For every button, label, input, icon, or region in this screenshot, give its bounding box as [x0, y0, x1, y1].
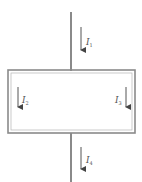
label-i2: I2 [21, 95, 29, 106]
label-i1: I1 [85, 37, 93, 48]
current-divider-diagram: I1 I2 I3 I4 [0, 0, 142, 182]
label-i3: I3 [114, 95, 122, 106]
label-i4: I4 [85, 155, 93, 166]
